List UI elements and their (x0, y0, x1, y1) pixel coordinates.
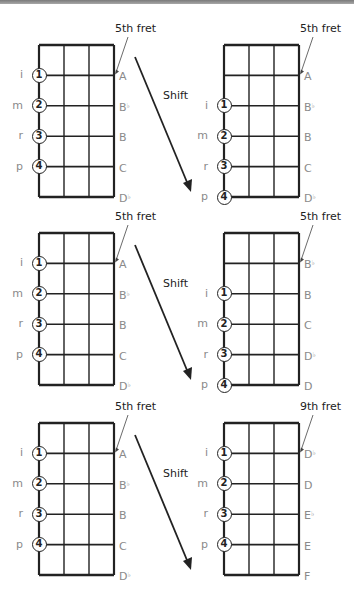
shift-label: Shift (163, 467, 188, 480)
shift-arrow-icon (0, 0, 354, 605)
